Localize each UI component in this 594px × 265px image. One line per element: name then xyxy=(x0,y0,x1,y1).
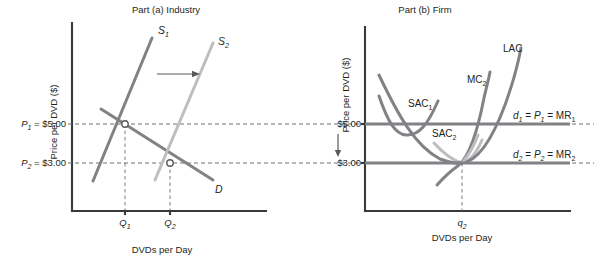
supply-curve-s2-label: S2 xyxy=(218,35,229,49)
sac2-curve-label: SAC2 xyxy=(432,128,457,141)
panel-b-tick-label-q2: q2 xyxy=(457,217,466,230)
panel-a-tick-label-q2: Q2 xyxy=(164,217,175,230)
p2-value: = $3.00 xyxy=(31,157,66,168)
demand-curve-d-label: D xyxy=(215,183,223,195)
panel-b-price-label-1: $5.00 xyxy=(337,118,361,129)
panel-a-industry: Part (a) Industry Price per DVD ($) P1 =… xyxy=(21,4,594,255)
panel-b-firm: Part (b) Firm Price per DVD ($) $5.00 $3… xyxy=(335,4,576,243)
lac-curve-label: LAC xyxy=(503,43,522,54)
lac-curve xyxy=(379,48,521,163)
panel-b-title: Part (b) Firm xyxy=(398,4,451,15)
panel-b-price-label-2: $3.00 xyxy=(337,157,361,168)
price-drop-arrow xyxy=(335,134,341,157)
panel-a-price-label-1: P1 = $5.00 xyxy=(21,118,66,131)
sac1-curve-label: SAC1 xyxy=(408,98,433,111)
panel-a-price-label-2: P2 = $3.00 xyxy=(21,157,66,170)
mc2-curve-label: MC2 xyxy=(467,74,487,87)
equilibrium-point-1 xyxy=(122,121,128,127)
price-drop-arrow-head xyxy=(335,150,341,157)
panel-a-tick-label-q1: Q1 xyxy=(119,217,130,230)
economics-figure: Part (a) Industry Price per DVD ($) P1 =… xyxy=(0,0,594,265)
panel-a-title: Part (a) Industry xyxy=(132,4,200,15)
panel-b-x-axis-label: DVDs per Day xyxy=(432,232,493,243)
supply-shift-arrow xyxy=(157,71,200,77)
demand-line-d2-label: d2 = P2 = MR2 xyxy=(513,149,575,162)
demand-line-d1-label: d1 = P1 = MR1 xyxy=(513,110,575,123)
figure-svg: Part (a) Industry Price per DVD ($) P1 =… xyxy=(0,0,594,265)
supply-curve-s2 xyxy=(155,43,213,180)
p1-value: = $5.00 xyxy=(31,118,66,129)
panel-a-x-axis-label: DVDs per Day xyxy=(132,244,193,255)
equilibrium-point-2 xyxy=(167,160,173,166)
supply-curve-s1-label: S1 xyxy=(158,24,169,38)
